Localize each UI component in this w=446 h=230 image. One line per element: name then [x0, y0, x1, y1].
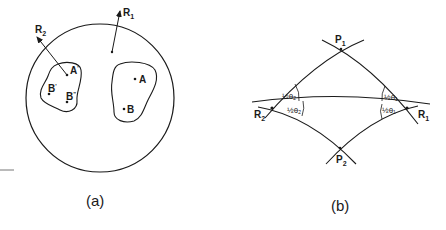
vertex-p2 — [339, 147, 342, 150]
label-a: A — [139, 74, 146, 85]
angle-label-r1-lower: ½θ₁ — [382, 106, 396, 115]
diagram-canvas: R1 R2 A' B' B" A B (a) — [0, 0, 446, 230]
label-a-prime: A' — [70, 65, 79, 76]
label-b-prime: B' — [48, 83, 57, 94]
panel-b: ½θ₂ ½θ₂ ½θ₁ ½θ₁ P1 P2 R1 R2 (b) — [252, 34, 430, 214]
angle-label-r2-lower: ½θ₂ — [287, 106, 301, 115]
point-a-prime — [66, 74, 69, 77]
label-r2: R2 — [254, 109, 265, 122]
label-r1: R1 — [418, 109, 429, 122]
angle-arc-r2-lower — [302, 101, 304, 116]
label-b: B — [127, 104, 134, 115]
vector-r1-arrow — [112, 11, 120, 52]
vector-r2-label: R2 — [35, 24, 46, 37]
angle-label-r2-upper: ½θ₂ — [282, 92, 296, 101]
point-a — [134, 78, 137, 81]
arc-p1-r1 — [322, 40, 418, 124]
label-b-double-prime: B" — [66, 91, 76, 102]
sphere-outline — [26, 24, 174, 172]
label-p1: P1 — [335, 34, 346, 47]
vertex-r2 — [270, 106, 273, 109]
vertex-p1 — [340, 48, 343, 51]
caption-a: (a) — [86, 192, 104, 209]
vector-r1-label: R1 — [123, 7, 134, 20]
vector-r2-arrow — [37, 37, 67, 75]
label-p2: P2 — [336, 154, 347, 167]
vertex-r1 — [405, 106, 408, 109]
arc-p1-r2 — [265, 40, 364, 118]
point-b — [123, 108, 126, 111]
caption-b: (b) — [331, 197, 349, 214]
panel-a: R1 R2 A' B' B" A B (a) — [0, 7, 174, 209]
angle-label-r1-upper: ½θ₁ — [384, 93, 398, 102]
